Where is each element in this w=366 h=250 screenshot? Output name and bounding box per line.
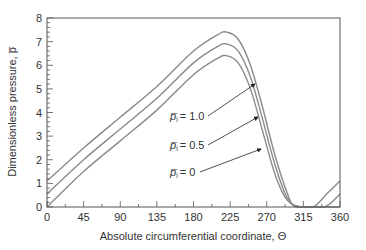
y-tick-label: 5 [36, 83, 42, 95]
annotation-pi-0.5: p̅i= 0.5 [169, 117, 258, 152]
x-tick-label: 180 [184, 211, 202, 223]
x-tick-label: 225 [221, 211, 239, 223]
y-tick-label: 7 [36, 36, 42, 48]
x-tick-label: 270 [258, 211, 276, 223]
svg-text:p̅i= 0: p̅i= 0 [169, 166, 195, 179]
x-tick-label: 135 [148, 211, 166, 223]
y-tick-label: 2 [36, 154, 42, 166]
y-tick-label: 3 [36, 130, 42, 142]
y-tick-label: 1 [36, 177, 42, 189]
annotation-pi-1: p̅i= 1.0 [169, 84, 255, 123]
x-tick-label: 360 [331, 211, 349, 223]
x-tick-label: 90 [114, 211, 126, 223]
y-tick-label: 0 [36, 201, 42, 213]
curve-series-1 [47, 44, 340, 207]
x-axis-label: Absolute circumferential coordinate, Θ [100, 230, 287, 242]
x-tick-label: 45 [78, 211, 90, 223]
y-tick-label: 4 [36, 107, 42, 119]
x-tick-label: 0 [44, 211, 50, 223]
y-tick-label: 6 [36, 59, 42, 71]
pressure-chart: 04590135180225270315360012345678 Absolut… [0, 0, 366, 250]
svg-text:p̅i= 0.5: p̅i= 0.5 [169, 139, 204, 152]
x-tick-label: 315 [294, 211, 312, 223]
y-axis-label: Dimensionless pressure, p̅ [6, 46, 18, 177]
svg-text:p̅i= 1.0: p̅i= 1.0 [169, 110, 204, 123]
y-tick-label: 8 [36, 12, 42, 24]
annotation-pi-0: p̅i= 0 [169, 149, 261, 179]
curve-series-2 [47, 55, 340, 207]
